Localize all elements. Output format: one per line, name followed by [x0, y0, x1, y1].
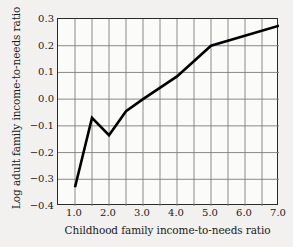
x-tick-label: 3.0	[125, 207, 159, 218]
data-line	[58, 19, 279, 206]
y-tick-label: 0.3	[26, 13, 54, 24]
plot-area	[57, 18, 278, 205]
y-tick-label: −0.4	[26, 200, 54, 211]
y-axis-title: Log adult family income-to-needs ratio	[10, 13, 22, 209]
y-tick-label: 0.1	[26, 66, 54, 77]
x-axis-title: Childhood family income-to-needs ratio	[57, 224, 278, 236]
x-tick-label: 5.0	[193, 207, 227, 218]
x-tick-label: 4.0	[159, 207, 193, 218]
x-tick-label: 2.0	[91, 207, 125, 218]
x-axis-tick-labels: 1.02.03.04.05.06.07.0	[57, 207, 278, 223]
y-axis-tick-labels: 0.30.20.10.0−0.1−0.2−0.3−0.4	[24, 18, 54, 205]
y-tick-label: −0.2	[26, 146, 54, 157]
chart-figure: Log adult family income-to-needs ratio 0…	[0, 0, 293, 247]
y-tick-label: −0.3	[26, 173, 54, 184]
x-tick-label: 6.0	[227, 207, 261, 218]
y-tick-label: −0.1	[26, 119, 54, 130]
y-tick-label: 0.2	[26, 39, 54, 50]
x-tick-label: 7.0	[261, 207, 293, 218]
y-tick-label: 0.0	[26, 93, 54, 104]
x-tick-label: 1.0	[57, 207, 91, 218]
